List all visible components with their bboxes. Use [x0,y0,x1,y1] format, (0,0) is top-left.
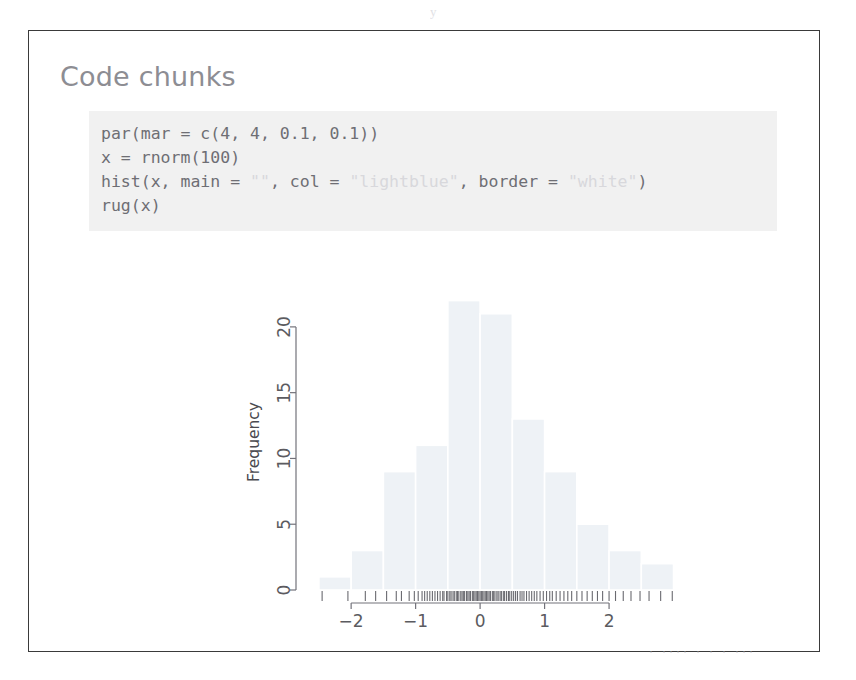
scan-artifact-bottom: · ···· · · · ··· [649,645,856,663]
histogram-bars [319,301,674,590]
code-string-literal: "white" [568,172,638,191]
code-token: , col = [270,172,349,191]
code-token: rug(x) [101,196,161,215]
histogram-bar [351,551,383,590]
x-tick-label: −2 [339,611,364,631]
rug-marks [322,591,672,601]
code-token: par(mar = c(4, 4, 0.1, 0.1)) [101,124,379,143]
histogram-bar [383,472,415,590]
scan-artifact-top: y [0,0,856,22]
code-token: ) [637,172,647,191]
y-tick-label: 15 [274,382,294,404]
code-chunk: par(mar = c(4, 4, 0.1, 0.1))x = rnorm(10… [89,111,777,231]
y-tick-label: 10 [274,448,294,470]
histogram-bar [480,314,512,590]
code-line: hist(x, main = "", col = "lightblue", bo… [101,170,765,194]
code-token: , border = [459,172,568,191]
histogram-bar [319,577,351,590]
histogram-bar [448,301,480,590]
x-tick-label: −1 [403,611,428,631]
histogram-bar [416,445,448,590]
code-string-literal: "lightblue" [349,172,458,191]
y-tick-label: 20 [274,316,294,338]
histogram-plot: 05101520Frequency−2−1012 [234,286,694,646]
x-tick-label: 1 [539,611,550,631]
code-token: x = rnorm(100) [101,148,240,167]
x-tick-label: 2 [604,611,615,631]
histogram-bar [577,524,609,590]
page-title: Code chunks [60,61,236,92]
scan-smudge-glyph: y [430,4,444,16]
y-tick-label: 5 [274,519,294,530]
histogram-bar [512,419,544,590]
code-line: x = rnorm(100) [101,146,765,170]
slide-frame: Code chunks par(mar = c(4, 4, 0.1, 0.1))… [28,30,820,652]
histogram-bar [609,551,641,590]
histogram-svg: 05101520Frequency−2−1012 [234,286,694,646]
code-line: rug(x) [101,194,765,218]
x-tick-label: 0 [475,611,486,631]
histogram-bar [545,472,577,590]
histogram-bar [641,564,673,590]
code-token: hist(x, main = [101,172,250,191]
y-tick-label: 0 [274,585,294,596]
code-line: par(mar = c(4, 4, 0.1, 0.1)) [101,122,765,146]
code-string-literal: "" [250,172,270,191]
y-axis-title: Frequency [245,402,263,482]
